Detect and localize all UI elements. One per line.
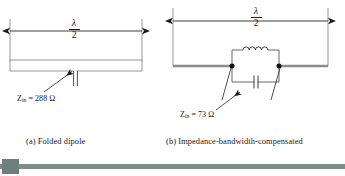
feed-gap-a [74, 70, 77, 72]
dimension-label-b: λ 2 [245, 6, 267, 29]
impedance-subscript-a: in [22, 97, 27, 103]
feed-terminals-a [74, 71, 78, 86]
horizontal-scrollbar[interactable] [0, 158, 345, 176]
dimension-label-a: λ 2 [63, 18, 85, 41]
denominator-b: 2 [245, 19, 267, 29]
impedance-value-a: 288 [35, 94, 47, 103]
impedance-unit-b: Ω [208, 110, 214, 119]
impedance-label-b: Zin = 73 Ω [180, 110, 214, 119]
folded-dipole-loop [10, 60, 142, 71]
figure-container: λ 2 λ 2 Zin = 288 Ω Zin = 73 Ω (a) Folde… [0, 0, 345, 158]
impedance-value-b: 73 [198, 110, 206, 119]
junction-dot-left [230, 64, 235, 69]
scrollbar-track[interactable] [0, 164, 345, 169]
junction-dot-right [277, 64, 282, 69]
lambda-numerator-b: λ [245, 6, 267, 17]
impedance-equals-a: = [28, 94, 33, 103]
scrollbar-thumb[interactable] [2, 159, 19, 174]
lambda-numerator-a: λ [63, 18, 85, 29]
lc-tank-frame [232, 50, 279, 82]
antenna-diagram-svg [0, 0, 345, 158]
leader-line-a [44, 72, 72, 93]
caption-panel-a: (a) Folded dipole [26, 137, 85, 146]
inductor-coil [243, 47, 268, 50]
denominator-a: 2 [63, 31, 85, 41]
impedance-subscript-b: in [185, 113, 190, 119]
feed-terminals-b [222, 68, 280, 100]
leader-line-b [216, 92, 240, 110]
capacitor-plates [254, 76, 258, 89]
impedance-label-a: Zin = 288 Ω [17, 94, 55, 103]
caption-panel-b: (b) Impedance-bandwidth-compensated [166, 137, 303, 146]
impedance-unit-a: Ω [49, 94, 55, 103]
impedance-equals-b: = [191, 110, 196, 119]
